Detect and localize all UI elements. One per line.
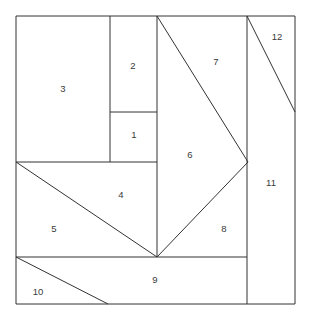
region-label-10: 10 bbox=[33, 286, 44, 297]
region-label-1: 1 bbox=[131, 129, 136, 140]
region-label-2: 2 bbox=[130, 60, 135, 71]
diagram-root: 123456789101112 bbox=[0, 0, 313, 314]
region-label-4: 4 bbox=[118, 189, 123, 200]
region-label-7: 7 bbox=[213, 56, 218, 67]
region-label-8: 8 bbox=[221, 223, 226, 234]
region-label-11: 11 bbox=[266, 177, 276, 188]
region-label-3: 3 bbox=[60, 83, 65, 94]
region-label-12: 12 bbox=[272, 31, 283, 42]
region-label-5: 5 bbox=[51, 223, 56, 234]
region-label-9: 9 bbox=[152, 274, 157, 285]
dissection-diagram: 123456789101112 bbox=[0, 0, 313, 314]
region-label-6: 6 bbox=[187, 149, 192, 160]
